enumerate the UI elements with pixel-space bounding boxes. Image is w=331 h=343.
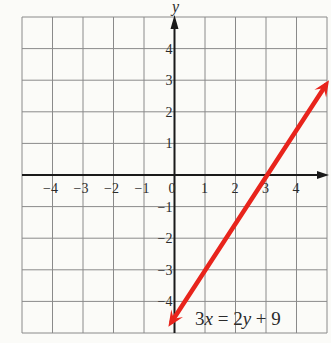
x-tick-label: 0 (169, 181, 176, 196)
y-tick-label: 3 (166, 73, 173, 88)
y-tick-label: 1 (166, 136, 173, 151)
equation-line (172, 85, 326, 321)
x-tick-label: −2 (104, 181, 119, 196)
x-tick-label: −1 (135, 181, 150, 196)
x-tick-label: 2 (232, 181, 239, 196)
x-tick-label: 1 (201, 181, 208, 196)
y-axis-label: y (170, 0, 180, 16)
coordinate-graph: −4−3−2−1012344321−1−2−3−4 y 3x = 2y + 9 (0, 0, 331, 343)
y-tick-label: −4 (158, 294, 173, 309)
equation-label: 3x = 2y + 9 (195, 308, 281, 329)
y-tick-label: −2 (158, 231, 173, 246)
y-tick-label: −1 (158, 200, 173, 215)
x-tick-label: −3 (74, 181, 89, 196)
x-tick-label: 4 (293, 181, 300, 196)
y-tick-label: −3 (158, 263, 173, 278)
y-tick-label: 2 (166, 105, 173, 120)
y-tick-label: 4 (166, 42, 173, 57)
x-tick-label: −4 (43, 181, 58, 196)
line-series (168, 80, 329, 326)
axes (22, 15, 329, 333)
